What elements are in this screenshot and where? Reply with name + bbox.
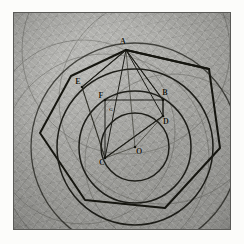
point-label-A: A	[120, 38, 126, 46]
point-label-D: D	[163, 118, 169, 126]
chord-A-C	[105, 50, 126, 158]
point-label-F: F	[99, 92, 104, 100]
chords-group	[82, 50, 163, 158]
point-label-C: C	[99, 159, 105, 167]
outer-circle	[31, 43, 231, 230]
point-label-B: B	[162, 89, 167, 97]
arc-faint-1	[13, 40, 175, 224]
point-label-E: E	[75, 78, 80, 86]
point-A	[125, 49, 128, 52]
point-E	[81, 86, 84, 89]
point-label-G: G	[109, 107, 113, 112]
arc-from-B	[59, 12, 231, 204]
point-B	[162, 99, 165, 102]
point-F	[104, 99, 107, 102]
concentric-circles-group	[31, 43, 231, 230]
engraving-plate: A B C D E F G O	[13, 12, 231, 230]
point-label-O: O	[136, 148, 142, 156]
radius-O-D	[135, 116, 163, 147]
page-root: A B C D E F G O	[0, 0, 244, 244]
